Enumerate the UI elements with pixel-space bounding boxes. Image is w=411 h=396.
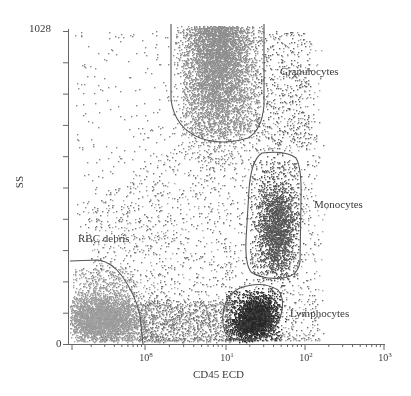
lymphocytes-label: Lymphocytes	[290, 307, 349, 319]
granulocytes-gate[interactable]	[171, 24, 264, 142]
y-axis	[63, 29, 69, 345]
rbc-debris-gate[interactable]	[70, 260, 143, 344]
granulocytes-label: Granulocytes	[280, 65, 339, 77]
y-axis-min-label: 0	[56, 337, 62, 349]
x-tick-label: 102	[299, 351, 313, 363]
x-axis	[68, 344, 385, 350]
monocytes-label: Monocytes	[314, 198, 363, 210]
x-tick-label: 101	[220, 351, 234, 363]
y-axis-title: SS	[13, 176, 25, 188]
monocytes-gate[interactable]	[246, 152, 301, 278]
rbc-debris-label: RBC debris	[78, 232, 130, 244]
lymphocytes-gate[interactable]	[223, 284, 283, 340]
x-tick-label: 103	[378, 351, 392, 363]
x-axis-title: CD45 ECD	[193, 368, 244, 380]
y-axis-max-label: 1028	[29, 22, 51, 34]
x-tick-label: 108	[139, 351, 153, 363]
